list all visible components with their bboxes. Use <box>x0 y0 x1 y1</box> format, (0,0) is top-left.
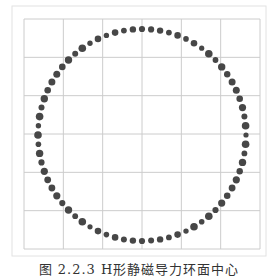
data-point <box>218 200 225 207</box>
data-point <box>148 26 154 32</box>
data-point <box>166 30 172 36</box>
data-point <box>236 95 243 102</box>
data-point <box>191 40 198 47</box>
data-point <box>212 207 218 213</box>
data-point <box>121 28 127 34</box>
data-point <box>130 237 136 243</box>
data-point <box>174 231 181 238</box>
data-point <box>44 87 51 94</box>
data-point <box>139 238 145 244</box>
data-point <box>34 131 42 139</box>
data-point <box>218 63 225 70</box>
data-point <box>36 150 43 157</box>
data-point <box>44 176 51 183</box>
data-point <box>174 32 181 39</box>
data-point <box>95 36 102 43</box>
data-point <box>48 79 55 86</box>
data-point <box>36 141 42 147</box>
data-point <box>243 132 248 137</box>
data-point <box>166 235 172 241</box>
plot-grid <box>24 19 260 249</box>
figure-caption: 图 2.2.3 H形静磁导力环面中心 <box>0 259 278 278</box>
data-point <box>87 224 92 229</box>
data-point <box>41 168 48 175</box>
data-point <box>233 176 240 183</box>
data-point <box>130 26 136 32</box>
data-point <box>72 51 78 57</box>
data-point <box>65 56 72 63</box>
data-point <box>104 33 109 38</box>
outer-frame <box>12 6 266 256</box>
data-point <box>190 223 198 231</box>
data-point <box>183 36 189 42</box>
data-point <box>224 71 230 77</box>
data-point <box>59 200 65 206</box>
data-point <box>148 238 154 244</box>
data-point <box>242 151 248 157</box>
data-point <box>157 236 163 242</box>
data-point <box>87 41 92 46</box>
data-point <box>183 228 188 233</box>
data-point <box>237 168 243 174</box>
data-point <box>36 113 44 121</box>
data-point <box>112 29 119 36</box>
data-point <box>239 159 246 166</box>
data-point <box>205 50 213 58</box>
data-point <box>242 122 250 130</box>
data-point <box>79 218 87 226</box>
data-point <box>229 185 236 192</box>
data-point <box>79 44 87 52</box>
data-point <box>112 234 119 241</box>
data-point <box>53 71 60 78</box>
data-point <box>49 185 56 192</box>
data-point <box>38 159 44 165</box>
data-point <box>241 114 247 120</box>
data-point <box>213 57 219 63</box>
data-point <box>59 64 66 71</box>
data-point <box>229 79 236 86</box>
data-point <box>121 236 127 242</box>
data-point <box>199 46 204 51</box>
data-point <box>205 212 213 220</box>
data-point <box>239 104 246 111</box>
data-point <box>39 105 45 111</box>
data-point <box>65 206 72 213</box>
data-point <box>36 123 41 128</box>
data-point <box>224 193 231 200</box>
data-point <box>41 95 48 102</box>
data-point <box>157 27 163 33</box>
data-point <box>104 232 110 238</box>
data-point <box>53 192 60 199</box>
data-point <box>95 228 102 235</box>
data-point <box>242 140 250 148</box>
data-point <box>139 26 145 32</box>
data-point <box>199 219 205 225</box>
data-point <box>233 87 240 94</box>
data-point <box>72 213 78 219</box>
